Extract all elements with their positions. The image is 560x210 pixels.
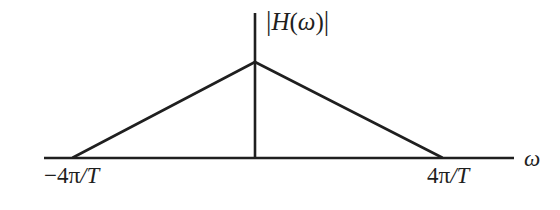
x-tick-label-left-cutoff: −4π/T: [44, 164, 99, 187]
magnitude-open-paren: (: [289, 8, 297, 35]
magnitude-omega-variable: ω: [298, 8, 316, 35]
x-tick-label-right-cutoff: 4π/T: [427, 164, 469, 187]
magnitude-left-slope: [73, 62, 255, 158]
tick-numerator: 4: [57, 163, 69, 188]
magnitude-axis-label: |H(ω)|: [266, 8, 329, 35]
magnitude-close-bar: |: [324, 6, 329, 36]
omega-axis-label: ω: [524, 147, 540, 170]
tick-pi-symbol: π: [439, 163, 451, 188]
tick-pi-symbol: π: [68, 163, 80, 188]
transfer-function-name: H: [271, 8, 289, 35]
filter-magnitude-response-figure: |H(ω)| ω −4π/T 4π/T: [0, 0, 560, 210]
tick-numerator: 4: [427, 163, 439, 188]
magnitude-right-slope: [255, 62, 442, 158]
magnitude-close-paren: ): [315, 8, 323, 35]
tick-minus-sign: −: [44, 163, 57, 188]
tick-period-symbol: T: [87, 163, 100, 188]
tick-period-symbol: T: [457, 163, 470, 188]
